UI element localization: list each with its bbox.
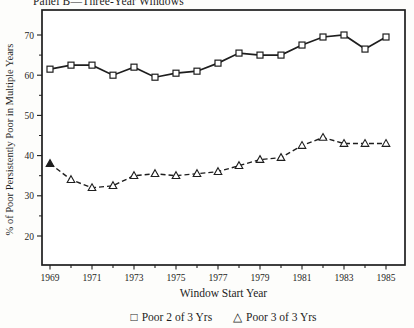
svg-text:30: 30 [25,191,35,201]
svg-text:1973: 1973 [125,273,144,283]
legend-item-poor-2-of-3: □Poor 2 of 3 Yrs [130,310,212,325]
triangle-marker-icon: △ [233,310,242,325]
chart-figure: Panel B—Three-Year Windows % of Poor Per… [0,0,414,328]
svg-text:1981: 1981 [293,273,312,283]
legend-label-poor-3-of-3: Poor 3 of 3 Yrs [246,311,317,323]
svg-text:1985: 1985 [377,273,396,283]
legend: □Poor 2 of 3 Yrs △Poor 3 of 3 Yrs [42,310,405,325]
square-marker-icon: □ [130,310,137,325]
x-axis-label: Window Start Year [42,287,405,299]
svg-text:1977: 1977 [209,273,228,283]
svg-text:1983: 1983 [335,273,354,283]
svg-text:1971: 1971 [83,273,102,283]
svg-text:40: 40 [25,151,35,161]
legend-label-poor-2-of-3: Poor 2 of 3 Yrs [142,311,213,323]
plot-area: 2030405060701969197119731975197719791981… [0,0,414,328]
svg-text:70: 70 [25,31,35,41]
svg-text:1979: 1979 [251,273,270,283]
svg-text:20: 20 [25,232,35,242]
svg-text:1975: 1975 [167,273,186,283]
svg-text:1969: 1969 [41,273,60,283]
svg-text:50: 50 [25,111,35,121]
svg-text:60: 60 [25,71,35,81]
legend-item-poor-3-of-3: △Poor 3 of 3 Yrs [233,310,317,325]
